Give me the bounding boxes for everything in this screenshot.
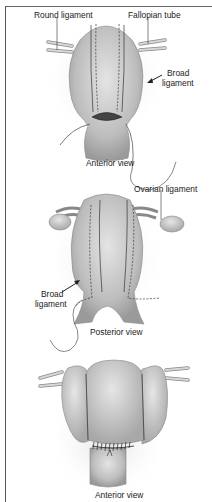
caption-anterior-view-bottom: Anterior view xyxy=(95,491,143,500)
label-round-ligament: Round ligament xyxy=(34,11,93,20)
label-ovarian-ligament: Ovarian ligament xyxy=(134,185,197,194)
label-broad-ligament-1b: ligament xyxy=(162,79,194,88)
caption-posterior-view: Posterior view xyxy=(90,328,143,337)
panel-anterior-bottom xyxy=(40,360,188,500)
label-broad-ligament-2a: Broad xyxy=(41,290,63,299)
label-fallopian-tube: Fallopian tube xyxy=(128,11,181,20)
caption-anterior-view-top: Anterior view xyxy=(86,159,134,168)
label-broad-ligament-1a: Broad xyxy=(167,69,189,78)
label-broad-ligament-2b: ligament xyxy=(35,300,67,309)
